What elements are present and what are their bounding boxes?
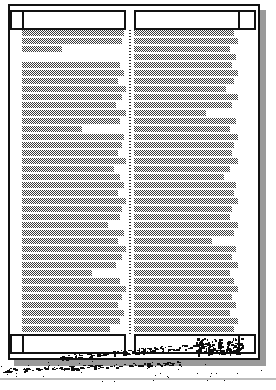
noise-speck: [79, 370, 80, 371]
noise-speck: [163, 363, 166, 364]
noise-speck: [238, 345, 241, 346]
noise-speck: [110, 366, 113, 367]
noise-speck: [232, 341, 233, 343]
text-line: [134, 246, 236, 252]
noise-speck: [67, 358, 70, 359]
noise-speck: [169, 365, 170, 366]
text-line: [22, 318, 120, 324]
noise-speck: [163, 350, 164, 352]
noise-speck: [26, 368, 30, 370]
noise-speck: [188, 348, 191, 349]
noise-speck: [139, 350, 140, 352]
text-line: [22, 182, 124, 188]
noise-speck: [78, 357, 82, 358]
noise-speck: [64, 370, 65, 371]
text-line: [134, 262, 238, 268]
noise-speck: [123, 351, 124, 352]
column-gutter-rule: [129, 30, 131, 334]
noise-speck: [48, 362, 49, 363]
noise-speck: [176, 349, 180, 351]
noise-speck: [198, 354, 200, 357]
text-line: [22, 254, 122, 260]
noise-speck: [211, 373, 212, 374]
noise-speck: [155, 366, 156, 367]
text-line: [134, 230, 234, 236]
noise-speck: [88, 358, 90, 359]
noise-speck: [178, 369, 179, 370]
noise-speck: [168, 346, 170, 347]
noise-speck: [84, 368, 85, 369]
noise-speck: [75, 356, 76, 358]
noise-speck: [212, 341, 213, 343]
noise-speck: [137, 353, 140, 355]
noise-speck: [236, 350, 238, 351]
noise-speck: [125, 351, 127, 352]
noise-speck: [16, 376, 17, 377]
noise-speck: [102, 381, 103, 382]
noise-speck: [119, 366, 120, 367]
noise-speck: [219, 353, 220, 355]
footer-cell-left: [22, 334, 126, 354]
noise-speck: [80, 368, 82, 369]
noise-speck: [204, 346, 207, 347]
text-line: [134, 326, 234, 332]
noise-speck: [26, 370, 28, 372]
noise-speck: [216, 373, 217, 374]
noise-speck: [204, 351, 207, 352]
noise-speck: [151, 351, 154, 352]
noise-speck: [97, 353, 101, 355]
noise-speck: [236, 349, 238, 350]
noise-speck: [1, 366, 2, 367]
text-line: [22, 118, 120, 124]
noise-speck: [228, 343, 230, 345]
noise-speck: [220, 342, 223, 344]
text-line: [134, 286, 238, 292]
text-line: [134, 110, 206, 116]
text-line: [22, 78, 118, 84]
text-line: [134, 174, 224, 180]
noise-speck: [5, 371, 7, 373]
text-line: [22, 38, 122, 44]
text-line: [22, 326, 110, 332]
noise-speck: [209, 344, 210, 345]
noise-speck: [204, 338, 206, 340]
noise-speck: [197, 373, 198, 374]
text-line: [22, 70, 124, 76]
noise-speck: [165, 347, 166, 348]
header-cell-right: [134, 10, 240, 30]
text-line: [134, 190, 234, 196]
noise-speck: [155, 348, 158, 350]
text-line: [22, 246, 126, 252]
noise-speck: [80, 355, 83, 356]
noise-speck: [9, 369, 10, 371]
text-line: [134, 38, 238, 44]
noise-speck: [100, 367, 104, 368]
noise-speck: [210, 376, 211, 377]
noise-speck: [10, 368, 12, 369]
text-line: [134, 182, 236, 188]
noise-speck: [13, 368, 16, 370]
text-line: [22, 46, 62, 52]
noise-speck: [56, 368, 58, 369]
noise-speck: [208, 353, 209, 356]
noise-speck: [65, 359, 67, 360]
text-line: [22, 158, 126, 164]
noise-speck: [30, 369, 31, 370]
text-line: [134, 158, 238, 164]
noise-speck: [160, 364, 161, 366]
noise-speck: [48, 367, 49, 368]
text-line: [22, 262, 116, 268]
noise-speck: [238, 352, 240, 353]
text-line: [134, 198, 238, 204]
header-cell-left: [22, 10, 126, 30]
noise-speck: [46, 368, 49, 370]
text-line: [22, 142, 122, 148]
noise-speck: [103, 355, 105, 356]
noise-speck: [207, 380, 208, 381]
noise-speck: [16, 373, 17, 374]
noise-speck: [98, 368, 100, 369]
noise-speck: [79, 363, 80, 364]
noise-speck: [141, 365, 144, 367]
noise-speck: [219, 347, 222, 349]
text-line: [22, 238, 118, 244]
